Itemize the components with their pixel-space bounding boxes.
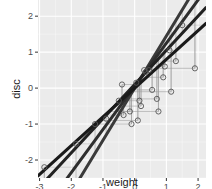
y-axis: -2-1012 <box>25 11 38 165</box>
x-tick-label: 2 <box>196 182 201 189</box>
y-tick-label: -2 <box>25 155 33 165</box>
x-tick-label: -2 <box>67 182 75 189</box>
scatter-plot: -3-2-1012 -2-1012 weight disc <box>0 0 212 189</box>
x-tick-label: 1 <box>164 182 169 189</box>
y-axis-title: disc <box>10 79 22 99</box>
y-tick-label: 0 <box>28 83 33 93</box>
y-tick-label: -1 <box>25 119 33 129</box>
x-tick-label: -3 <box>36 182 44 189</box>
y-tick-label: 2 <box>28 11 33 21</box>
y-tick-label: 1 <box>28 47 33 57</box>
x-axis-title: weight <box>105 176 138 188</box>
